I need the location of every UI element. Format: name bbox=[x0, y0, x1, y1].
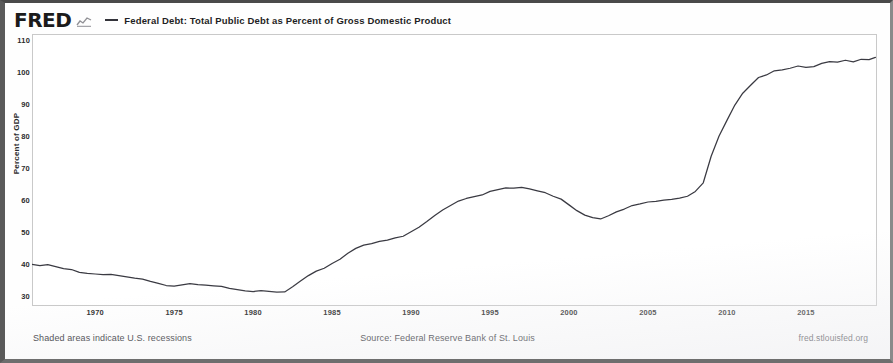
source-label: Source: Federal Reserve Bank of St. Loui… bbox=[5, 333, 890, 343]
x-axis-tick-label: 2000 bbox=[560, 308, 578, 317]
y-axis-tick-label: 100 bbox=[2, 68, 30, 77]
legend-line-icon bbox=[105, 19, 118, 21]
mini-line-chart-icon bbox=[76, 13, 92, 31]
legend-label: Federal Debt: Total Public Debt as Perce… bbox=[124, 15, 451, 26]
x-axis-tick-label: 2015 bbox=[797, 308, 815, 317]
x-axis-tick-label: 1995 bbox=[481, 308, 499, 317]
x-axis-tick-label: 1985 bbox=[323, 308, 341, 317]
x-axis-tick-label: 2010 bbox=[718, 308, 736, 317]
y-axis-tick-label: 40 bbox=[2, 260, 30, 269]
x-axis-tick-label: 1980 bbox=[244, 308, 262, 317]
x-axis-ticks: 1970197519801985199019952000200520102015 bbox=[32, 308, 877, 322]
chart-footer: Shaded areas indicate U.S. recessions So… bbox=[5, 330, 890, 352]
data-series-line bbox=[32, 57, 875, 292]
x-axis-tick-label: 1975 bbox=[165, 308, 183, 317]
x-axis-tick-label: 1970 bbox=[86, 308, 104, 317]
x-axis-tick-label: 2005 bbox=[639, 308, 657, 317]
chart-plot-area bbox=[32, 34, 877, 306]
fred-logo: FRED bbox=[14, 10, 71, 30]
y-axis-tick-label: 110 bbox=[2, 36, 30, 45]
y-axis-tick-label: 30 bbox=[2, 292, 30, 301]
y-axis-tick-label: 50 bbox=[2, 228, 30, 237]
fred-url[interactable]: fred.stlouisfed.org bbox=[799, 333, 868, 343]
chart-header: FRED Federal Debt: Total Public Debt as … bbox=[14, 9, 451, 31]
x-axis-tick-label: 1990 bbox=[402, 308, 420, 317]
y-axis-title: Percent of GDP bbox=[12, 89, 21, 199]
fred-chart-figure: FRED Federal Debt: Total Public Debt as … bbox=[0, 0, 893, 363]
